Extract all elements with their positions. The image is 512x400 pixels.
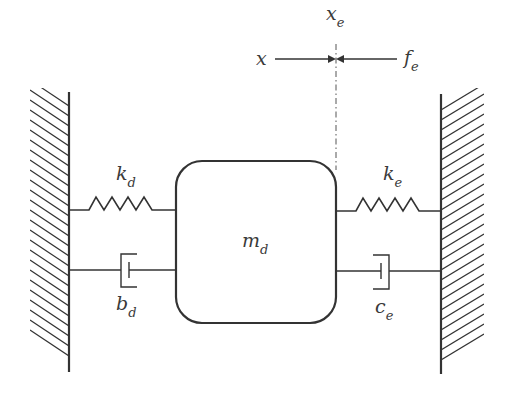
label-bd: bd — [116, 292, 137, 320]
left-wall-hatching — [30, 80, 69, 356]
damper-bd — [69, 254, 176, 287]
label-kd: kd — [116, 162, 136, 190]
arrow-right-head-icon — [328, 55, 336, 63]
label-md: md — [242, 229, 268, 257]
right-wall-hatching — [441, 84, 484, 360]
spring-ke — [336, 198, 441, 211]
label-x: x — [256, 47, 267, 69]
label-ce: ce — [375, 295, 394, 323]
label-xe: xe — [326, 2, 345, 30]
spring-kd — [69, 197, 176, 210]
mass-spring-damper-diagram: x xe fe kd ke md bd ce — [0, 0, 512, 400]
left-wall — [30, 80, 69, 372]
arrow-left-head-icon — [336, 55, 344, 63]
damper-ce — [336, 255, 441, 289]
label-ke: ke — [383, 162, 403, 190]
right-wall — [441, 84, 484, 374]
label-fe: fe — [402, 46, 419, 74]
